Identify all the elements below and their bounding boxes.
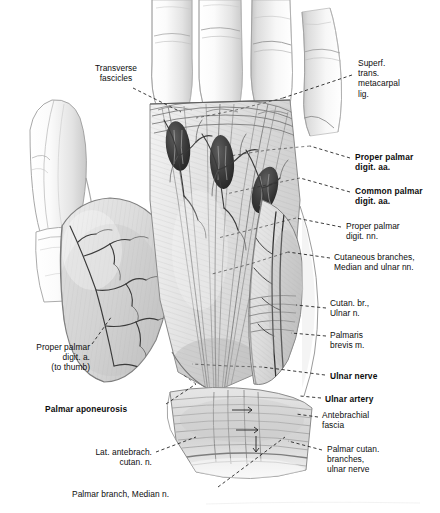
label-lat-antebrach-cutan-n: Lat. antebrach. cutan. n. xyxy=(72,447,152,467)
label-proper-palmar-digit-nn: Proper palmar digit. nn. xyxy=(346,221,434,241)
label-palmar-branch-median-n: Palmar branch, Median n. xyxy=(72,489,222,499)
label-proper-palmar-digit-a-to-thumb: Proper palmar digit. a. (to thumb) xyxy=(14,342,90,373)
label-superf-trans-metacarpal-lig: Superf. trans. metacarpal lig. xyxy=(358,58,438,99)
label-cutaneous-branches-median-ulnar: Cutaneous branches, Median and ulnar nn. xyxy=(334,252,440,272)
label-ulnar-nerve: Ulnar nerve xyxy=(330,371,404,381)
label-ulnar-artery: Ulnar artery xyxy=(325,394,401,404)
digit-2-index xyxy=(152,0,193,110)
label-common-palmar-digit-aa: Common palmar digit. aa. xyxy=(355,186,440,206)
label-cutan-br-ulnar-n: Cutan. br., Ulnar n. xyxy=(330,298,400,318)
label-palmar-aponeurosis: Palmar aponeurosis xyxy=(45,404,165,414)
label-transverse-fascicles: Transverse fascicles xyxy=(70,63,162,83)
label-antebrachial-fascia: Antebrachial fascia xyxy=(322,410,402,430)
digit-4-ring xyxy=(251,0,293,114)
label-proper-palmar-digit-aa: Proper palmar digit. aa. xyxy=(355,152,440,172)
label-palmar-cutan-branches-ulnar-nerve: Palmar cutan. branches, ulnar nerve xyxy=(327,444,407,475)
digit-3-middle xyxy=(199,0,243,112)
anatomical-plate: Transverse fascicles Superf. trans. meta… xyxy=(0,0,440,513)
label-palmaris-brevis-m: Palmaris brevis m. xyxy=(330,330,400,350)
